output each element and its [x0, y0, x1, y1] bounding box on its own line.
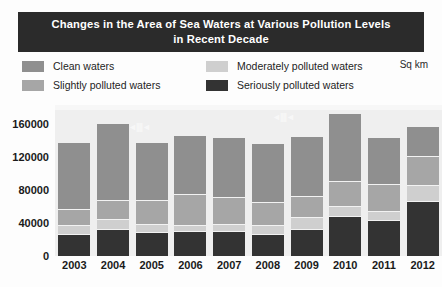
bar-2005[interactable]: [136, 108, 168, 256]
bar-segment-2005-slightly[interactable]: [136, 201, 168, 225]
legend-item-clean: Clean waters: [22, 58, 114, 74]
x-axis-label-2009: 2009: [288, 259, 326, 271]
bar-segment-2003-clean[interactable]: [58, 143, 90, 210]
bar-segment-2008-clean[interactable]: [252, 144, 284, 202]
x-axis-label-2012: 2012: [404, 259, 442, 271]
bar-segment-2007-seriously[interactable]: [213, 232, 245, 256]
bar-segment-2008-seriously[interactable]: [252, 235, 284, 256]
y-axis-tick-80000: 80000: [18, 184, 49, 196]
x-axis-label-2007: 2007: [210, 259, 248, 271]
x-axis-label-2005: 2005: [133, 259, 171, 271]
legend-item-slightly: Slightly polluted waters: [22, 77, 160, 93]
bar-segment-2006-clean[interactable]: [174, 136, 206, 195]
legend-label-clean: Clean waters: [53, 60, 114, 72]
bar-segment-2003-seriously[interactable]: [58, 235, 90, 256]
chart-figure: Changes in the Area of Sea Waters at Var…: [0, 0, 442, 287]
legend-swatch-clean: [22, 61, 44, 72]
y-axis-tick-120000: 120000: [12, 151, 49, 163]
bar-stack-2005: [136, 143, 168, 256]
chart-title-banner: Changes in the Area of Sea Waters at Var…: [18, 12, 424, 52]
bar-2012[interactable]: [407, 108, 439, 256]
bar-2003[interactable]: [58, 108, 90, 256]
bar-2009[interactable]: [291, 108, 323, 256]
chart-legend: Clean waters Slightly polluted waters Mo…: [18, 58, 428, 98]
axis-unit-label: Sq km: [400, 59, 428, 70]
bar-stack-2006: [174, 136, 206, 256]
bar-stack-2010: [329, 114, 361, 256]
x-axis-label-2008: 2008: [249, 259, 287, 271]
bar-2007[interactable]: [213, 108, 245, 256]
bar-segment-2005-clean[interactable]: [136, 143, 168, 201]
legend-item-moderately: Moderately polluted waters: [206, 58, 362, 74]
chart-title: Changes in the Area of Sea Waters at Var…: [51, 17, 390, 47]
bar-2008[interactable]: [252, 108, 284, 256]
bar-segment-2003-slightly[interactable]: [58, 210, 90, 226]
bar-segment-2006-seriously[interactable]: [174, 232, 206, 256]
bar-segment-2009-seriously[interactable]: [291, 230, 323, 256]
bar-stack-2012: [407, 127, 439, 256]
bar-stack-2011: [368, 138, 400, 256]
bar-segment-2004-clean[interactable]: [97, 124, 129, 200]
legend-swatch-seriously: [206, 80, 228, 91]
bar-segment-2005-moderately[interactable]: [136, 225, 168, 233]
bar-stack-2007: [213, 138, 245, 256]
y-axis-tick-160000: 160000: [12, 118, 49, 130]
legend-swatch-moderately: [206, 61, 228, 72]
legend-label-seriously: Seriously polluted waters: [237, 79, 354, 91]
bar-series-container: [55, 104, 442, 264]
bar-segment-2012-seriously[interactable]: [407, 202, 439, 256]
bar-segment-2011-slightly[interactable]: [368, 185, 400, 212]
bar-2006[interactable]: [174, 108, 206, 256]
bar-segment-2010-moderately[interactable]: [329, 207, 361, 218]
x-axis-label-2010: 2010: [326, 259, 364, 271]
bar-segment-2011-seriously[interactable]: [368, 221, 400, 256]
bar-segment-2006-slightly[interactable]: [174, 195, 206, 225]
bar-2011[interactable]: [368, 108, 400, 256]
y-axis-tick-40000: 40000: [18, 217, 49, 229]
bar-segment-2010-seriously[interactable]: [329, 217, 361, 256]
bar-segment-2010-clean[interactable]: [329, 114, 361, 182]
legend-label-moderately: Moderately polluted waters: [237, 60, 362, 72]
x-axis-label-2011: 2011: [365, 259, 403, 271]
chart-title-line-2: in Recent Decade: [173, 33, 269, 45]
bar-segment-2005-seriously[interactable]: [136, 233, 168, 256]
bar-segment-2004-slightly[interactable]: [97, 201, 129, 220]
bar-segment-2009-clean[interactable]: [291, 137, 323, 197]
bar-stack-2009: [291, 137, 323, 256]
x-axis: 2003200420052006200720082009201020112012: [55, 256, 442, 282]
bar-segment-2011-clean[interactable]: [368, 138, 400, 185]
bar-2004[interactable]: [97, 108, 129, 256]
bar-segment-2007-slightly[interactable]: [213, 198, 245, 224]
bar-segment-2012-moderately[interactable]: [407, 186, 439, 202]
bar-stack-2003: [58, 143, 90, 256]
legend-item-seriously: Seriously polluted waters: [206, 77, 354, 93]
plot-area: ◄||||◄ ◄||||◄ 04000080000120000160000 20…: [0, 104, 442, 287]
bar-segment-2004-seriously[interactable]: [97, 230, 129, 256]
bar-segment-2009-moderately[interactable]: [291, 218, 323, 230]
y-axis: 04000080000120000160000: [0, 104, 55, 264]
bar-stack-2008: [252, 144, 284, 256]
legend-label-slightly: Slightly polluted waters: [53, 79, 160, 91]
bar-segment-2012-clean[interactable]: [407, 127, 439, 157]
bar-segment-2004-moderately[interactable]: [97, 220, 129, 230]
x-axis-label-2003: 2003: [55, 259, 93, 271]
legend-swatch-slightly: [22, 80, 44, 91]
bar-segment-2012-slightly[interactable]: [407, 157, 439, 187]
y-axis-tick-0: 0: [43, 250, 49, 262]
bar-segment-2010-slightly[interactable]: [329, 182, 361, 207]
chart-title-line-1: Changes in the Area of Sea Waters at Var…: [51, 18, 390, 30]
bar-2010[interactable]: [329, 108, 361, 256]
bar-segment-2007-clean[interactable]: [213, 138, 245, 198]
bar-segment-2003-moderately[interactable]: [58, 226, 90, 235]
bar-segment-2008-moderately[interactable]: [252, 226, 284, 234]
x-axis-label-2006: 2006: [171, 259, 209, 271]
bar-segment-2007-moderately[interactable]: [213, 225, 245, 232]
bar-segment-2011-moderately[interactable]: [368, 212, 400, 220]
x-axis-label-2004: 2004: [94, 259, 132, 271]
bar-stack-2004: [97, 124, 129, 256]
bar-segment-2009-slightly[interactable]: [291, 197, 323, 218]
bar-segment-2008-slightly[interactable]: [252, 203, 284, 227]
